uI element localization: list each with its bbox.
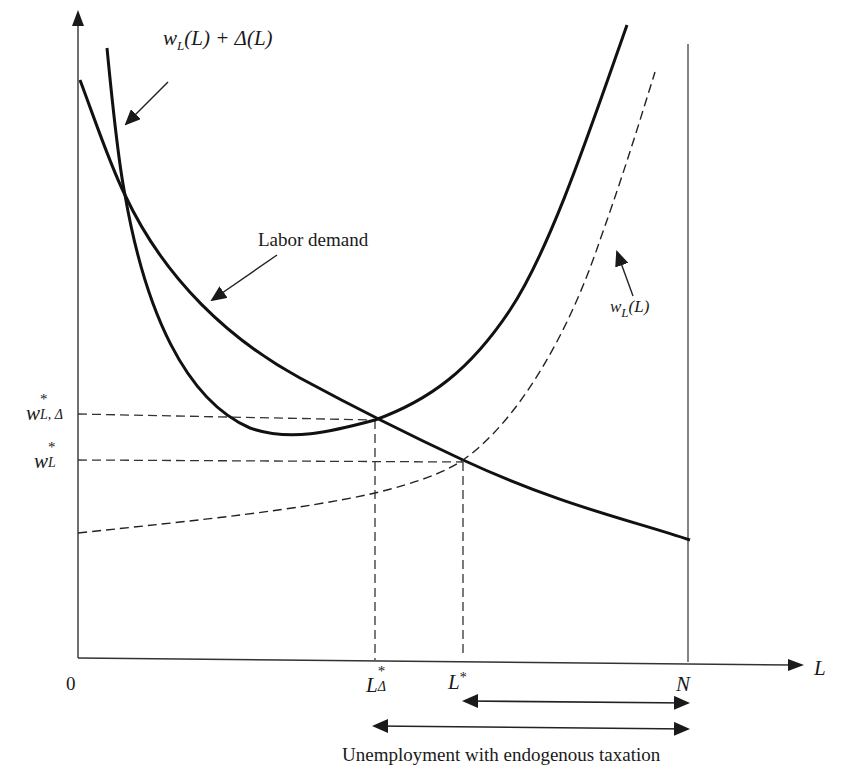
wage-pointer-arrow-icon — [617, 252, 633, 296]
diagram-canvas — [0, 0, 845, 778]
unemployment-caption: Unemployment with endogenous taxation — [342, 744, 660, 766]
y-tick-w-l: w*L — [34, 448, 76, 478]
labor-demand-pointer-arrow-icon — [212, 255, 277, 300]
x-tick-l-star-main: L — [448, 670, 460, 694]
x-tick-l-delta-sup: * — [378, 664, 386, 679]
x-axis — [78, 658, 804, 671]
origin-text: 0 — [66, 673, 76, 694]
x-axis-label-text: L — [814, 656, 826, 680]
x-axis-arrow-icon — [788, 659, 804, 671]
y-axis — [72, 10, 84, 658]
origin-label: 0 — [66, 674, 76, 693]
unemployment-standard-arrow-icon — [466, 701, 688, 703]
x-tick-n: N — [676, 674, 690, 695]
wage-plus-tax-label: wL(L) + Δ(L) — [163, 28, 273, 49]
x-tick-l-star-sup: * — [460, 670, 467, 685]
labor-demand-curve — [80, 80, 690, 540]
wage-sub: L — [621, 305, 628, 320]
x-tick-l-delta-sub: Δ — [378, 680, 386, 694]
y-tick-w-l-delta-main: w — [26, 401, 40, 425]
y-axis-arrow-icon — [72, 10, 84, 26]
y-tick-w-l-sup: * — [48, 440, 56, 455]
labor-market-diagram: wL(L) + Δ(L) Labor demand wL(L) w*L, Δ w… — [0, 0, 845, 778]
x-tick-l-star: L* — [448, 672, 467, 693]
y-tick-w-l-delta-sup: * — [40, 392, 48, 407]
x-tick-l-delta: L*Δ — [366, 672, 392, 702]
wage-plus-tax-main: w — [163, 26, 177, 50]
labor-demand-text: Labor demand — [258, 229, 368, 250]
wage-plus-tax-rest: (L) + Δ(L) — [184, 26, 272, 50]
unemployment-caption-text: Unemployment with endogenous taxation — [342, 744, 660, 765]
wage-curve-label: wL(L) — [610, 298, 649, 315]
labor-demand-label: Labor demand — [258, 230, 368, 249]
wage-rest: (L) — [629, 297, 650, 316]
equilibrium-guides — [78, 414, 463, 660]
wage-main: w — [610, 297, 621, 316]
x-axis-label: L — [814, 658, 826, 679]
wage-curve — [78, 72, 655, 533]
wage-plus-tax-pointer-arrow-icon — [126, 82, 168, 124]
y-tick-w-l-main: w — [34, 449, 48, 473]
wage-plus-tax-sub: L — [177, 38, 184, 53]
x-tick-l-delta-main: L — [366, 673, 378, 697]
unemployment-arrows — [372, 694, 688, 733]
w-l-guide — [78, 460, 463, 462]
y-tick-w-l-delta-sub: L, Δ — [40, 408, 63, 422]
unemployment-endogenous-arrow-icon — [376, 726, 688, 729]
y-tick-w-l-sub: L — [48, 456, 56, 470]
y-tick-w-l-delta: w*L, Δ — [26, 400, 68, 430]
x-tick-n-text: N — [676, 672, 690, 696]
